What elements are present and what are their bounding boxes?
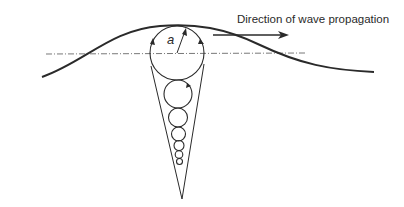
orbit-circle-7 xyxy=(177,159,183,165)
still-water-line xyxy=(46,53,307,54)
wave-profile xyxy=(42,25,374,77)
radius-arrowhead-icon xyxy=(182,28,187,36)
propagation-label: Direction of wave propagation xyxy=(237,13,389,25)
wave-orbit-diagram: a Direction of wave propagation xyxy=(0,0,404,207)
orbit-circle-3 xyxy=(169,108,188,127)
radius-label: a xyxy=(167,32,174,47)
orbit-circle-6 xyxy=(175,151,183,159)
orbit-circle-5 xyxy=(174,141,184,151)
orbit-circle-4 xyxy=(172,127,186,141)
